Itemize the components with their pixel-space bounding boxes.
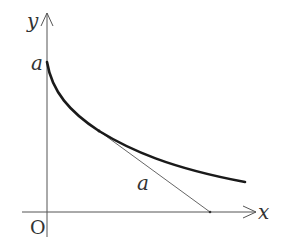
tangent-length-label: a <box>137 171 149 195</box>
origin-label: O <box>30 216 46 238</box>
tangent-foot-point <box>209 211 212 214</box>
tractrix-curve <box>47 62 245 182</box>
diagram-canvas: y a a x O <box>0 0 287 245</box>
y-intercept-label: a <box>31 51 43 75</box>
x-axis-label: x <box>258 200 269 224</box>
tangent-point <box>98 130 101 133</box>
y-axis-label: y <box>26 9 39 33</box>
